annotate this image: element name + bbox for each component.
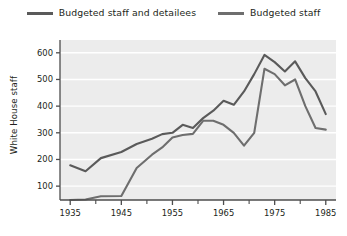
x-tick-label: 1965 — [213, 208, 234, 218]
x-tick-label: 1985 — [315, 208, 336, 218]
y-tick-label: 500 — [37, 74, 53, 84]
chart-figure: Budgeted staff and detailees Budgeted st… — [0, 0, 347, 236]
y-tick-label: 400 — [37, 101, 53, 111]
x-tick-label: 1935 — [60, 208, 81, 218]
y-tick-label: 200 — [37, 154, 53, 164]
plot-background — [60, 40, 336, 200]
y-tick-label: 600 — [37, 48, 53, 58]
x-tick-label: 1955 — [162, 208, 183, 218]
x-tick-label: 1975 — [264, 208, 285, 218]
y-tick-label: 100 — [37, 181, 53, 191]
chart-plot-area: 1002003004005006001935194519551965197519… — [0, 0, 347, 236]
y-tick-label: 300 — [37, 128, 53, 138]
x-tick-label: 1945 — [111, 208, 132, 218]
